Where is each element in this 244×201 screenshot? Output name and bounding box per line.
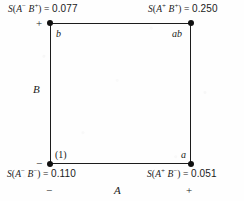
design-point-b: [47, 20, 53, 26]
formula-equals-sign: =: [44, 4, 49, 14]
formula-value: 0.250: [192, 3, 218, 14]
formula-sign-a: +: [162, 2, 166, 10]
corner-label-b: b: [56, 29, 61, 39]
formula-sign-a: +: [161, 167, 165, 175]
formula-bottom-right: S(A+ B−) = 0.051: [147, 168, 217, 180]
formula-close-paren: ): [178, 4, 181, 14]
axis-label-b: B: [33, 84, 40, 95]
level-marker-a-low: −: [46, 185, 52, 196]
formula-equals-sign: =: [184, 4, 189, 14]
formula-value: 0.110: [51, 168, 76, 179]
formula-top-right: S(A+ B+) = 0.250: [148, 3, 218, 15]
formula-sign-a: −: [22, 2, 26, 10]
formula-sign-a: −: [21, 167, 25, 175]
level-marker-b-high: +: [36, 18, 42, 29]
formula-close-paren: ): [38, 4, 41, 14]
level-marker-b-low: −: [36, 158, 42, 169]
formula-close-paren: ): [177, 169, 180, 179]
corner-label-a: a: [181, 150, 186, 160]
factorial-square-plot-figure: b ab (1) a S(A− B+) = 0.077 S(A+ B+) = 0…: [0, 0, 244, 201]
formula-value: 0.077: [52, 3, 78, 14]
corner-label-one: (1): [55, 150, 67, 160]
formula-equals-sign: =: [43, 169, 48, 179]
axis-label-a: A: [114, 185, 121, 196]
corner-label-ab: ab: [172, 29, 182, 39]
formula-bottom-left: S(A− B−) = 0.110: [7, 168, 76, 180]
design-point-a: [188, 161, 194, 167]
formula-top-left: S(A− B+) = 0.077: [8, 3, 78, 15]
level-marker-a-high: +: [186, 185, 192, 196]
formula-value: 0.051: [191, 168, 217, 179]
design-point-one: [47, 161, 53, 167]
formula-close-paren: ): [37, 169, 40, 179]
formula-equals-sign: =: [183, 169, 188, 179]
design-point-ab: [188, 20, 194, 26]
design-square-outline: [50, 23, 191, 164]
